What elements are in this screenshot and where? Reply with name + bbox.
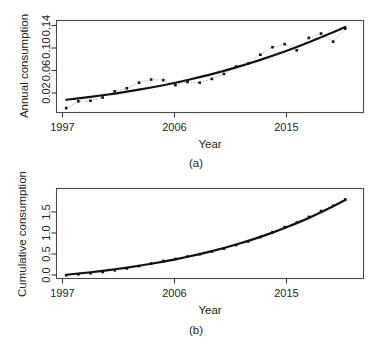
data-point	[211, 78, 214, 81]
plot-frame-b	[57, 189, 364, 279]
series-fitted-a	[66, 27, 345, 100]
fitted-curve	[66, 27, 345, 100]
y-tick-label-a-0: 0.02	[40, 82, 52, 103]
series-connector-b	[66, 200, 345, 276]
data-point	[186, 81, 189, 84]
data-point	[65, 274, 68, 277]
data-point	[295, 49, 298, 52]
data-point	[89, 272, 92, 275]
panel-caption-a: (a)	[189, 157, 203, 169]
data-point	[101, 96, 104, 99]
x-tick-label-a-0: 1997	[50, 121, 74, 133]
data-point	[77, 100, 80, 103]
y-tick-label-a-3: 0.14	[40, 15, 52, 36]
y-tick-label-b-3: 1.5	[40, 204, 52, 219]
connector-line	[66, 29, 345, 109]
data-point	[126, 87, 129, 90]
data-point	[283, 226, 286, 229]
data-point	[101, 271, 104, 274]
x-axis-title-a: Year	[198, 138, 221, 150]
data-point	[271, 231, 274, 234]
x-axis-ticks-a	[63, 113, 287, 118]
data-point	[138, 81, 141, 84]
data-point	[344, 198, 347, 201]
panel-b: 1.5 1.0 0.5 0.0 1997 2006 2015 Cumulativ…	[0, 172, 385, 344]
series-connector-a	[66, 29, 345, 109]
data-point	[198, 81, 201, 84]
panel-a-plot: 0.14 0.10 0.06 0.02 1997 2006 2015 Annua…	[0, 0, 385, 172]
data-point	[223, 247, 226, 250]
data-point	[113, 90, 116, 93]
data-point	[77, 273, 80, 276]
series-fitted-b	[66, 200, 345, 275]
data-point	[150, 262, 153, 265]
data-point	[223, 73, 226, 76]
y-tick-label-a-2: 0.10	[40, 37, 52, 58]
y-axis-ticks-a	[52, 26, 57, 94]
data-point	[126, 267, 129, 270]
data-point	[271, 46, 274, 49]
x-tick-label-a-1: 2006	[162, 121, 186, 133]
data-point	[113, 269, 116, 272]
data-point	[320, 210, 323, 213]
fitted-curve	[66, 200, 345, 275]
data-point	[283, 43, 286, 46]
data-point	[247, 240, 250, 243]
data-point	[65, 107, 68, 110]
panel-caption-b: (b)	[189, 324, 203, 336]
data-point	[138, 265, 141, 268]
series-observed-a	[65, 27, 347, 109]
x-tick-label-b-2: 2015	[274, 287, 298, 299]
y-tick-label-b-1: 0.5	[40, 246, 52, 261]
x-axis-ticks-b	[63, 279, 287, 284]
data-point	[89, 99, 92, 102]
data-point	[332, 40, 335, 43]
y-tick-label-b-0: 0.0	[40, 267, 52, 282]
y-tick-label-a-1: 0.06	[40, 60, 52, 81]
data-point	[174, 84, 177, 87]
y-axis-title-b: Cumulative consumption	[16, 172, 28, 297]
y-tick-label-b-2: 1.0	[40, 225, 52, 240]
data-point	[235, 244, 238, 247]
data-point	[174, 258, 177, 261]
data-point	[150, 78, 153, 81]
series-observed-b	[65, 198, 347, 276]
data-point	[259, 53, 262, 56]
x-tick-label-b-1: 2006	[162, 287, 186, 299]
panel-a: 0.14 0.10 0.06 0.02 1997 2006 2015 Annua…	[0, 0, 385, 172]
data-point	[198, 253, 201, 256]
data-point	[162, 260, 165, 263]
data-point	[320, 32, 323, 35]
data-point	[308, 216, 311, 219]
data-point	[162, 79, 165, 82]
panel-b-plot: 1.5 1.0 0.5 0.0 1997 2006 2015 Cumulativ…	[0, 172, 385, 344]
y-axis-title-a: Annual consumption	[18, 14, 30, 118]
x-axis-title-b: Year	[198, 304, 221, 316]
data-point	[247, 62, 250, 65]
data-point	[211, 250, 214, 253]
data-point	[344, 27, 347, 30]
x-tick-label-a-2: 2015	[274, 121, 298, 133]
y-axis-ticks-b	[52, 212, 57, 275]
connector-line	[66, 200, 345, 276]
data-point	[186, 255, 189, 258]
data-point	[332, 204, 335, 207]
data-point	[259, 236, 262, 239]
data-point	[308, 37, 311, 40]
data-point	[235, 65, 238, 68]
data-point	[295, 221, 298, 224]
x-tick-label-b-0: 1997	[50, 287, 74, 299]
figure-container: 0.14 0.10 0.06 0.02 1997 2006 2015 Annua…	[0, 0, 385, 344]
